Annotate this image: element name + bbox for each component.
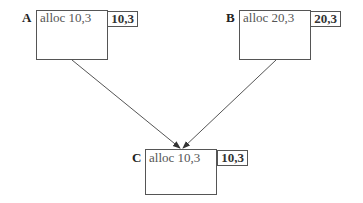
node-c-tag: 10,3 [217, 150, 248, 166]
node-a-text: alloc 10,3 [40, 10, 91, 26]
node-a-label: A [22, 10, 31, 26]
node-b-text: alloc 20,3 [243, 10, 294, 26]
node-c-label: C [132, 150, 141, 166]
edge-b-to-c [183, 60, 276, 148]
node-a-tag: 10,3 [107, 11, 138, 27]
node-b-label: B [226, 10, 235, 26]
node-b-tag: 20,3 [310, 11, 341, 27]
edge-a-to-c [72, 60, 180, 148]
node-c-text: alloc 10,3 [149, 150, 200, 166]
